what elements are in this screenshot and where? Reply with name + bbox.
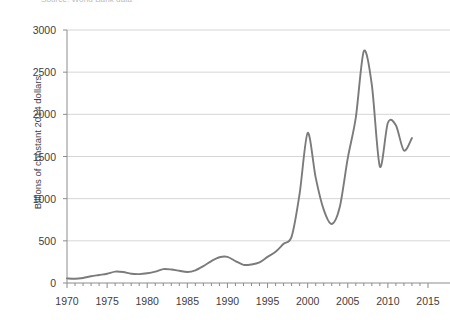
x-tick-label: 2000 xyxy=(288,295,328,307)
x-tick-label: 2010 xyxy=(368,295,408,307)
x-tick-label: 1980 xyxy=(127,295,167,307)
x-tick-label: 2015 xyxy=(408,295,448,307)
x-tick-label: 1985 xyxy=(167,295,207,307)
line-chart-plot xyxy=(0,0,450,320)
x-tick-label: 1995 xyxy=(248,295,288,307)
y-axis-tick-marks xyxy=(63,30,67,283)
x-tick-label: 2005 xyxy=(328,295,368,307)
chart-figure: Source: World Bank data Billions of cons… xyxy=(0,0,450,320)
x-tick-label: 1990 xyxy=(207,295,247,307)
x-axis-tick-marks xyxy=(67,283,428,288)
data-series-line xyxy=(67,50,412,278)
x-tick-label: 1970 xyxy=(47,295,87,307)
x-tick-label: 1975 xyxy=(87,295,127,307)
gridlines xyxy=(67,30,450,241)
